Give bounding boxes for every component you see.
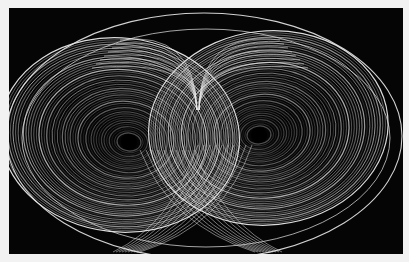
attractor-panel xyxy=(9,8,403,254)
lorenz-attractor-drawing xyxy=(9,8,403,254)
